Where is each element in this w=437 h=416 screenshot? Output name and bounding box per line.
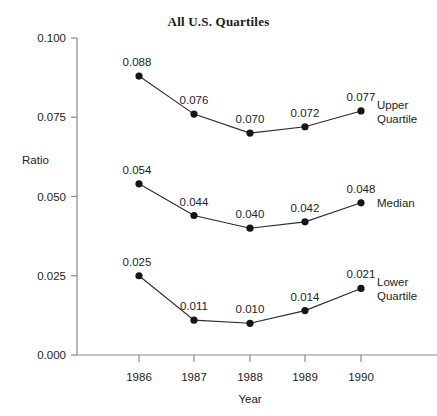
data-point-label: 0.088 <box>123 56 152 68</box>
y-tick-label: 0.050 <box>37 191 66 203</box>
data-point-marker <box>301 307 308 314</box>
data-point-marker <box>246 320 253 327</box>
chart-page: All U.S. Quartiles 0.0000.0250.0500.0750… <box>0 0 437 416</box>
y-tick-label: 0.100 <box>37 32 66 44</box>
series-name-label: Quartile <box>377 290 417 302</box>
data-point-label: 0.042 <box>291 202 320 214</box>
series-name-labels: UpperQuartileMedianLowerQuartile <box>377 99 417 303</box>
data-series-group <box>135 72 364 326</box>
x-axis-tick-labels: 19861987198819891990 <box>126 371 374 383</box>
series-name-label: Quartile <box>377 113 417 125</box>
x-tick-label: 1987 <box>181 371 207 383</box>
data-point-label: 0.044 <box>180 196 209 208</box>
data-point-marker <box>190 317 197 324</box>
data-point-labels: 0.0880.0760.0700.0720.0770.0540.0440.040… <box>123 56 376 315</box>
x-tick-label: 1989 <box>292 371 318 383</box>
data-point-label: 0.010 <box>236 303 265 315</box>
data-point-label: 0.021 <box>347 268 376 280</box>
data-point-label: 0.048 <box>347 183 376 195</box>
data-point-marker <box>135 272 142 279</box>
y-axis-tick-labels: 0.0000.0250.0500.0750.100 <box>37 32 66 361</box>
data-point-marker <box>357 285 364 292</box>
series-name-label: Upper <box>377 99 408 111</box>
data-point-marker <box>246 225 253 232</box>
data-point-marker <box>301 123 308 130</box>
data-point-marker <box>357 107 364 114</box>
quartiles-line-chart: 0.0000.0250.0500.0750.100 19861987198819… <box>0 0 437 416</box>
data-point-marker <box>357 199 364 206</box>
series-line <box>139 184 361 228</box>
series-line <box>139 276 361 324</box>
data-point-marker <box>190 212 197 219</box>
data-point-label: 0.040 <box>236 208 265 220</box>
y-axis-title: Ratio <box>22 154 49 166</box>
data-point-marker <box>246 130 253 137</box>
x-axis-title: Year <box>238 393 261 405</box>
y-tick-label: 0.000 <box>37 349 66 361</box>
data-point-marker <box>190 110 197 117</box>
y-tick-label: 0.075 <box>37 111 66 123</box>
data-point-marker <box>135 72 142 79</box>
data-point-label: 0.011 <box>180 300 208 312</box>
data-point-label: 0.025 <box>123 256 152 268</box>
data-point-label: 0.077 <box>347 91 376 103</box>
series-name-label: Median <box>377 197 415 209</box>
series-name-label: Lower <box>377 276 408 288</box>
x-tick-label: 1986 <box>126 371 152 383</box>
data-point-label: 0.070 <box>236 113 265 125</box>
x-tick-label: 1990 <box>348 371 374 383</box>
data-point-label: 0.072 <box>291 107 320 119</box>
data-point-label: 0.076 <box>180 94 209 106</box>
x-tick-label: 1988 <box>237 371 263 383</box>
data-point-marker <box>135 180 142 187</box>
data-point-label: 0.014 <box>291 291 320 303</box>
data-point-marker <box>301 218 308 225</box>
y-tick-label: 0.025 <box>37 270 66 282</box>
data-point-label: 0.054 <box>123 164 152 176</box>
